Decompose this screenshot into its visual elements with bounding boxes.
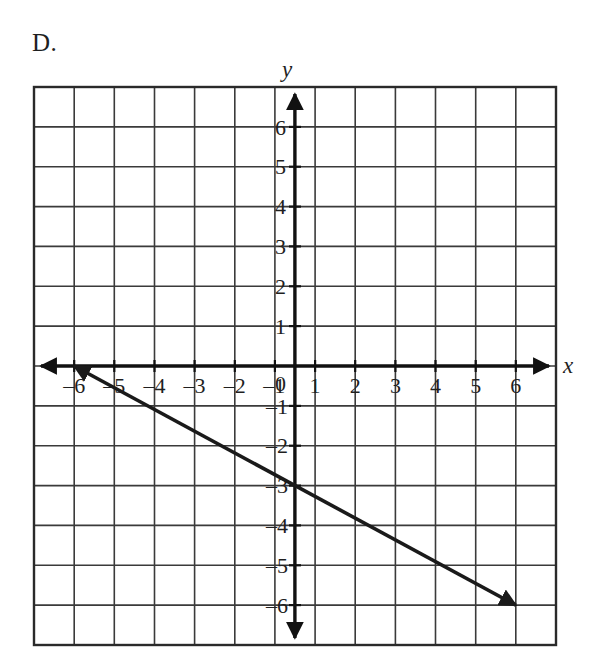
- y-tick-label: 1: [275, 314, 286, 339]
- x-tick-label: –2: [223, 373, 246, 398]
- x-tick-label: 4: [430, 373, 441, 398]
- x-tick-label: 1: [310, 373, 321, 398]
- y-tick-label: –6: [265, 593, 288, 618]
- y-tick-label: 6: [275, 115, 286, 140]
- x-tick-label: –3: [183, 373, 206, 398]
- y-tick-label: 4: [275, 194, 286, 219]
- origin-label: 0: [275, 371, 286, 396]
- worksheet-figure: D.: [0, 0, 610, 660]
- y-tick-label: –1: [265, 394, 288, 419]
- y-tick-label: 5: [275, 154, 286, 179]
- x-tick-label: –6: [62, 373, 85, 398]
- x-tick-label: 6: [510, 373, 521, 398]
- x-tick-label: 2: [350, 373, 361, 398]
- y-tick-label: –5: [265, 553, 288, 578]
- y-tick-label: 2: [275, 274, 286, 299]
- coordinate-plane: –6 –5 –4 –3 –2 –1 1 2 3 4 5 6 0 6 5 4 3 …: [0, 0, 610, 660]
- y-tick-label: –2: [265, 433, 288, 458]
- y-tick-label: 3: [275, 234, 286, 259]
- x-axis-label: x: [562, 353, 574, 378]
- y-tick-label: –4: [265, 513, 288, 538]
- x-tick-label: 3: [390, 373, 401, 398]
- y-axis-label: y: [280, 57, 293, 82]
- x-tick-label: 5: [470, 373, 481, 398]
- x-tick-label: –4: [143, 373, 166, 398]
